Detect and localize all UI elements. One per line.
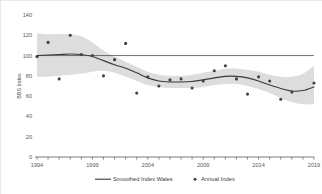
data-point xyxy=(202,79,205,82)
y-tick-label: 100 xyxy=(23,53,32,59)
x-tick-label: 1994 xyxy=(31,162,43,168)
data-point xyxy=(312,81,315,84)
data-point xyxy=(179,77,182,80)
y-tick-label: 140 xyxy=(23,12,32,18)
data-point xyxy=(168,78,171,81)
data-point xyxy=(257,75,260,78)
y-tick-label: 120 xyxy=(23,32,32,38)
data-point xyxy=(279,98,282,101)
y-tick-label: 20 xyxy=(26,134,32,140)
data-point xyxy=(213,69,216,72)
data-point xyxy=(191,86,194,89)
data-point xyxy=(146,75,149,78)
data-point xyxy=(224,64,227,67)
data-point xyxy=(157,84,160,87)
data-point xyxy=(91,54,94,57)
y-tick-label: 60 xyxy=(26,93,32,99)
figure-background xyxy=(1,1,322,194)
data-point xyxy=(47,41,50,44)
y-tick-label: 40 xyxy=(26,113,32,119)
chart-canvas: 020406080100120140 199419992004200920142… xyxy=(1,1,322,194)
data-point xyxy=(35,55,38,58)
x-tick-label: 2004 xyxy=(142,162,154,168)
legend-label-annual: Annual Index xyxy=(201,176,235,182)
legend-dot-swatch xyxy=(194,178,197,181)
data-point xyxy=(80,53,83,56)
y-axis-title: BBS Index xyxy=(16,73,22,99)
y-tick-label: 0 xyxy=(29,154,32,160)
data-point xyxy=(268,79,271,82)
x-tick-label: 2019 xyxy=(308,162,320,168)
chart-legend: Smoothed Index Wales Annual Index xyxy=(95,176,235,182)
x-tick-label: 2009 xyxy=(197,162,209,168)
data-point xyxy=(58,77,61,80)
data-point xyxy=(113,58,116,61)
data-point xyxy=(135,92,138,95)
data-point xyxy=(235,77,238,80)
x-tick-label: 2014 xyxy=(252,162,264,168)
chart-figure: 020406080100120140 199419992004200920142… xyxy=(0,0,322,194)
data-point xyxy=(102,74,105,77)
y-tick-label: 80 xyxy=(26,73,32,79)
data-point xyxy=(124,42,127,45)
legend-label-smoothed: Smoothed Index Wales xyxy=(113,176,173,182)
data-point xyxy=(69,34,72,37)
data-point xyxy=(246,93,249,96)
x-tick-label: 1999 xyxy=(86,162,98,168)
data-point xyxy=(290,91,293,94)
